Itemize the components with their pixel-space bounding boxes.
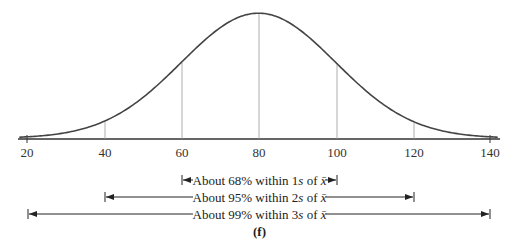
tick-label-60: 60 bbox=[176, 145, 189, 160]
range-99-annotation: About 99% within 3s of x̄ bbox=[28, 207, 490, 222]
tick-label-20: 20 bbox=[21, 145, 34, 160]
normal-curve bbox=[19, 13, 497, 137]
tick-label-140: 140 bbox=[480, 145, 500, 160]
range-68-text: About 68% within 1 bbox=[193, 173, 299, 188]
sigma-lines bbox=[105, 14, 414, 139]
svg-text:About 95% within 2s of x̄: About 95% within 2s of x̄ bbox=[193, 190, 328, 205]
tick-label-100: 100 bbox=[327, 145, 347, 160]
svg-text:About 99% within 3s of x̄: About 99% within 3s of x̄ bbox=[193, 207, 328, 222]
tick-label-80: 80 bbox=[253, 145, 266, 160]
svg-text:About 68% within 1s of x̄: About 68% within 1s of x̄ bbox=[193, 173, 328, 188]
tick-label-40: 40 bbox=[99, 145, 112, 160]
tick-labels: 20 40 60 80 100 120 140 bbox=[21, 145, 500, 160]
range-99-text: About 99% within 3 bbox=[193, 207, 299, 222]
tick-label-120: 120 bbox=[404, 145, 424, 160]
range-68-annotation: About 68% within 1s of x̄ bbox=[182, 173, 337, 188]
figure-caption: (f) bbox=[253, 224, 266, 239]
normal-distribution-chart: 20 40 60 80 100 120 140 About 68% within… bbox=[0, 0, 523, 247]
range-95-annotation: About 95% within 2s of x̄ bbox=[105, 190, 414, 205]
range-95-text: About 95% within 2 bbox=[193, 190, 299, 205]
